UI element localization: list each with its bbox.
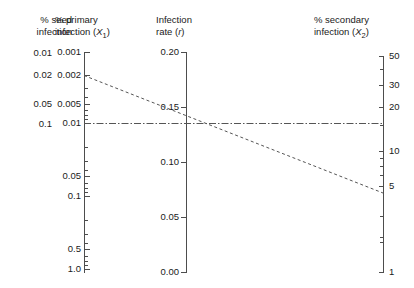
secondary-tick-50 — [379, 56, 384, 57]
secondary-tick-minor-4 — [380, 216, 383, 217]
secondary-infection-axis-line — [383, 56, 384, 273]
primary-tick-0.1 — [85, 196, 90, 197]
primary-tick-minor-0.07 — [85, 188, 88, 189]
primary-tick-label-5: 0.1 — [26, 191, 81, 201]
primary-tick-label-3: 0.01 — [26, 118, 81, 128]
primary-tick-0.001 — [85, 52, 90, 53]
secondary-tick-minor-2 — [380, 242, 383, 243]
primary-tick-minor-0.006 — [85, 110, 88, 111]
rate-tick-0.20 — [181, 52, 186, 53]
infection-rate-header-line2-pre: rate ( — [156, 26, 178, 37]
primary-infection-header-line1: % primary — [55, 14, 98, 25]
secondary-tick-minor-7 — [380, 175, 383, 176]
secondary-tick-minor-9 — [380, 158, 383, 159]
diagonal-reading-line — [84, 76, 383, 194]
primary-tick-minor-0.003 — [85, 88, 88, 89]
primary-tick-minor-0.03 — [85, 161, 88, 162]
primary-tick-0.002 — [85, 75, 90, 76]
secondary-tick-20 — [379, 107, 384, 108]
secondary-tick-minor-15 — [380, 125, 383, 126]
primary-tick-label-4: 0.05 — [26, 171, 81, 181]
secondary-tick-label-2: 20 — [389, 102, 413, 112]
primary-tick-minor-0.04 — [85, 170, 88, 171]
rate-tick-label-3: 0.05 — [136, 212, 179, 222]
primary-tick-0.05 — [85, 176, 90, 177]
primary-tick-0.5 — [85, 249, 90, 250]
secondary-tick-10 — [379, 151, 384, 152]
rate-tick-label-4: 0.00 — [136, 267, 179, 277]
secondary-tick-label-5: 1 — [389, 267, 413, 277]
infection-rate-header: Infection rate (r) — [156, 14, 246, 37]
primary-infection-header-line2-post: ) — [107, 26, 110, 37]
secondary-tick-minor-8 — [380, 166, 383, 167]
primary-infection-header-line2-pre: infection ( — [55, 26, 96, 37]
primary-tick-label-1: 0.002 — [26, 70, 81, 80]
secondary-tick-5 — [379, 186, 384, 187]
primary-tick-label-2: 0.005 — [26, 99, 81, 109]
secondary-infection-header: % secondary infection (X2) — [314, 14, 414, 41]
secondary-infection-header-line2-post: ) — [366, 26, 369, 37]
rate-tick-0.05 — [181, 217, 186, 218]
secondary-tick-minor-3 — [380, 237, 383, 238]
rate-tick-0.10 — [181, 162, 186, 163]
rate-tick-label-1: 0.15 — [136, 102, 179, 112]
secondary-tick-minor-40 — [380, 69, 383, 70]
primary-tick-0.005 — [85, 104, 90, 105]
primary-tick-minor-0.004 — [85, 97, 88, 98]
infection-rate-axis-line — [186, 52, 187, 273]
primary-tick-label-0: 0.001 — [26, 47, 81, 57]
rate-tick-label-2: 0.10 — [136, 157, 179, 167]
rate-tick-0.15 — [181, 107, 186, 108]
primary-tick-minor-0.08 — [85, 192, 88, 193]
primary-tick-minor-0.06 — [85, 183, 88, 184]
primary-tick-1.0 — [85, 269, 90, 270]
primary-tick-minor-0.2 — [85, 220, 88, 221]
infection-rate-header-line1: Infection — [156, 14, 192, 25]
primary-tick-minor-0.6 — [85, 256, 88, 257]
primary-tick-minor-0.02 — [85, 147, 88, 148]
secondary-infection-header-line1: % secondary — [314, 14, 369, 25]
primary-tick-minor-0.4 — [85, 243, 88, 244]
rate-tick-label-0: 0.20 — [136, 47, 179, 57]
primary-tick-minor-0.7 — [85, 261, 88, 262]
secondary-tick-30 — [379, 85, 384, 86]
secondary-infection-header-line2-pre: infection ( — [314, 26, 355, 37]
primary-tick-minor-0.008 — [85, 119, 88, 120]
primary-tick-label-7: 1.0 — [26, 264, 81, 274]
primary-tick-minor-0.8 — [85, 265, 88, 266]
secondary-tick-label-1: 30 — [389, 80, 413, 90]
primary-tick-minor-0.3 — [85, 234, 88, 235]
nomogram-figure: % seed infection % primary infection (X1… — [0, 0, 414, 288]
primary-infection-header: % primary infection (X1) — [55, 14, 145, 41]
primary-tick-minor-0.007 — [85, 115, 88, 116]
primary-infection-axis-line — [84, 52, 85, 273]
secondary-tick-label-4: 5 — [389, 181, 413, 191]
primary-tick-label-6: 0.5 — [26, 244, 81, 254]
secondary-tick-label-3: 10 — [389, 146, 413, 156]
secondary-tick-label-0: 50 — [389, 51, 413, 61]
secondary-tick-1 — [379, 272, 384, 273]
primary-tick-0.01 — [85, 123, 90, 124]
infection-rate-header-line2-post: ) — [181, 26, 184, 37]
rate-tick-0.00 — [181, 272, 186, 273]
